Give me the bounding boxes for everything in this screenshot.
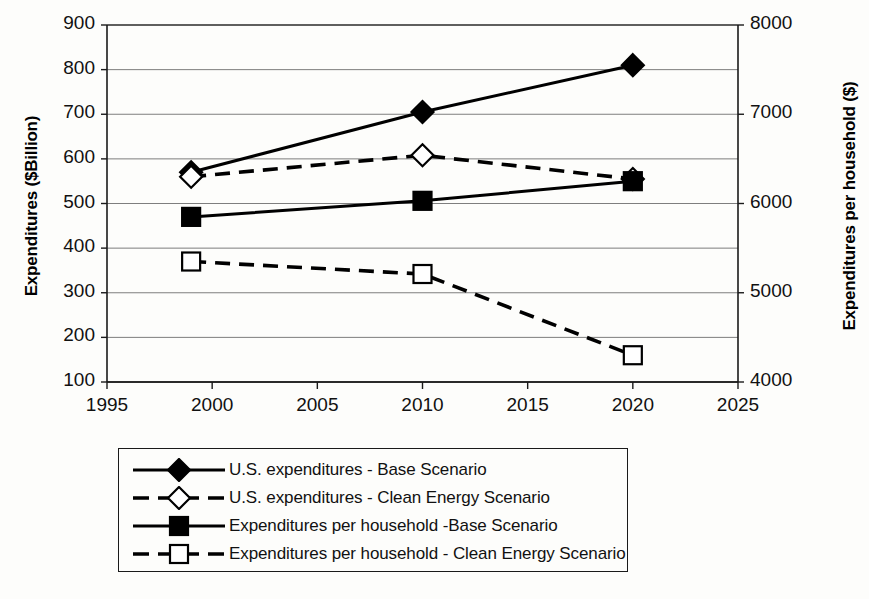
data-point-marker (168, 459, 190, 481)
data-point-marker (182, 208, 200, 226)
series-3 (182, 253, 642, 365)
data-point-marker (170, 545, 188, 563)
series-1 (180, 144, 644, 190)
data-point-marker (412, 144, 434, 166)
data-point-marker (622, 54, 644, 76)
legend-key-filled-square-icon (129, 514, 229, 538)
legend-label: Expenditures per household -Base Scenari… (229, 516, 558, 536)
series-0 (180, 54, 644, 183)
data-point-marker (182, 253, 200, 271)
data-point-marker (624, 346, 642, 364)
chart-legend: U.S. expenditures - Base ScenarioU.S. ex… (118, 448, 628, 572)
series-line (191, 262, 633, 356)
series-line (191, 181, 633, 217)
data-point-marker (414, 192, 432, 210)
data-point-marker (170, 517, 188, 535)
legend-item[interactable]: Expenditures per household - Clean Energ… (119, 540, 627, 568)
data-point-marker (168, 487, 190, 509)
legend-label: Expenditures per household - Clean Energ… (229, 544, 626, 564)
legend-key-open-diamond-icon (129, 486, 229, 510)
data-point-marker (414, 265, 432, 283)
legend-label: U.S. expenditures - Clean Energy Scenari… (229, 488, 550, 508)
legend-item[interactable]: U.S. expenditures - Clean Energy Scenari… (119, 484, 627, 512)
legend-label: U.S. expenditures - Base Scenario (229, 460, 487, 480)
series-2 (182, 172, 642, 226)
legend-item[interactable]: U.S. expenditures - Base Scenario (119, 456, 627, 484)
legend-key-filled-diamond-icon (129, 458, 229, 482)
data-point-marker (624, 172, 642, 190)
chart-container: Expenditures ($Billion) Expenditures per… (0, 0, 869, 599)
legend-key-open-square-icon (129, 542, 229, 566)
data-point-marker (412, 101, 434, 123)
legend-item[interactable]: Expenditures per household -Base Scenari… (119, 512, 627, 540)
